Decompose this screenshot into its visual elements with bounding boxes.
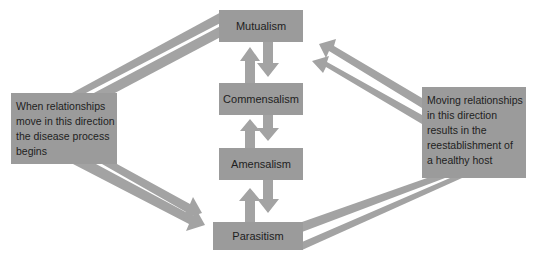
note-line: When relationships — [16, 99, 112, 114]
disease-process-note: When relationships move in this directio… — [11, 93, 117, 164]
left-upper-band-outer — [70, 10, 232, 94]
up-arrow-commensalism-to-mutualism — [240, 47, 260, 83]
note-line: in this direction — [427, 108, 521, 123]
right-lower-band-upper — [302, 178, 445, 232]
left-lower-arrow-outer — [73, 164, 205, 231]
healthy-host-note: Moving relationships in this direction r… — [422, 87, 526, 178]
amensalism-label: Amensalism — [231, 158, 291, 170]
note-line: Moving relationships — [427, 93, 521, 108]
note-line: reestablishment of — [427, 138, 521, 153]
parasitism-label: Parasitism — [232, 230, 283, 242]
note-line: results in the — [427, 123, 521, 138]
note-line: move in this direction — [16, 114, 112, 129]
down-arrow-amensalism-to-parasitism — [257, 180, 279, 213]
note-line: begins — [16, 144, 112, 159]
parasitism-box: Parasitism — [213, 222, 303, 250]
commensalism-box: Commensalism — [219, 83, 303, 115]
note-line: a healthy host — [427, 153, 521, 168]
up-arrow-amensalism-to-commensalism — [240, 119, 260, 148]
mutualism-box: Mutualism — [219, 10, 303, 42]
mutualism-label: Mutualism — [236, 20, 286, 32]
down-arrow-commensalism-to-amensalism — [257, 115, 279, 141]
left-upper-band-inner — [92, 20, 232, 94]
note-line: the disease process — [16, 129, 112, 144]
up-arrow-parasitism-to-amensalism — [239, 188, 261, 222]
commensalism-label: Commensalism — [223, 93, 299, 105]
left-lower-arrow-inner — [102, 164, 202, 219]
right-upper-arrow-outer — [319, 39, 422, 108]
down-arrow-mutualism-to-commensalism — [257, 42, 279, 77]
amensalism-box: Amensalism — [219, 148, 303, 180]
